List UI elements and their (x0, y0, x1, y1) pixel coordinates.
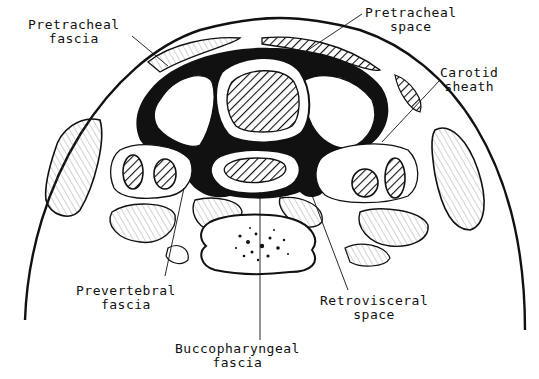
right-sternocleidomastoid-lateral (432, 128, 484, 230)
label-pretracheal-space: Pretrachealspace (365, 6, 457, 34)
label-buccopharyngeal-fascia: Buccopharyngealfascia (175, 342, 300, 370)
right-lower-muscle (345, 244, 390, 266)
right-jugular-vein (385, 158, 405, 198)
right-carotid-artery (352, 169, 378, 197)
left-scalene-muscle (110, 204, 175, 242)
label-pretracheal-fascia: Pretrachealfascia (28, 18, 120, 46)
right-scalene-muscle (359, 209, 428, 246)
right-sternocleidomastoid (395, 75, 421, 112)
anatomy-drawing (0, 0, 539, 379)
vertebral-body (201, 215, 315, 275)
left-jugular-vein (123, 155, 143, 189)
label-retrovisceral-space: Retrovisceralspace (320, 294, 428, 322)
left-carotid-artery (154, 159, 176, 189)
left-sternocleidomastoid (46, 119, 102, 216)
neck-cross-section-diagram: Pretrachealfascia Pretrachealspace Carot… (0, 0, 539, 379)
label-prevertebral-fascia: Prevertebralfascia (76, 284, 176, 312)
esophagus-lumen (224, 158, 285, 183)
trachea-cartilage (227, 71, 299, 132)
label-carotid-sheath: Carotidsheath (440, 66, 498, 94)
